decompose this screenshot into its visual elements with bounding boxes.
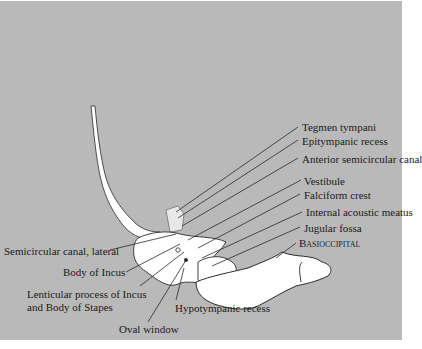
squamous-temporal-plate [91, 106, 160, 238]
label-vestibule: Vestibule [304, 175, 345, 187]
label-epitympanic-recess: Epitympanic recess [302, 135, 388, 147]
label-body-of-stapes: and Body of Stapes [27, 301, 113, 313]
label-anterior-semicircular-canal: Anterior semicircular canal [302, 153, 422, 165]
label-lenticular-process-of-incus: Lenticular process of Incus [27, 288, 146, 300]
label-tegmen-tympani: Tegmen tympani [302, 121, 376, 133]
label-falciform-crest: Falciform crest [304, 189, 371, 201]
tegmen-block [166, 206, 184, 232]
label-basioccipital: Basioccipital [299, 237, 360, 249]
label-semicircular-canal-lateral: Semicircular canal, lateral [4, 245, 119, 257]
label-oval-window: Oval window [119, 323, 179, 335]
label-body-of-incus: Body of Incus [63, 266, 125, 278]
label-internal-acoustic-meatus: Internal acoustic meatus [306, 206, 413, 218]
label-jugular-fossa: Jugular fossa [304, 222, 362, 234]
label-hypotympanic-recess: Hypotympanic recess [175, 302, 270, 314]
